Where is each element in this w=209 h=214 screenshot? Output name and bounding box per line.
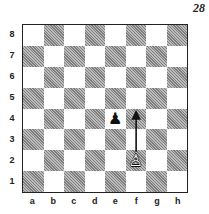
diagram-number: 28 (193, 1, 205, 16)
square-h2 (167, 150, 188, 171)
square-h5 (167, 88, 188, 109)
black-pawn-e4: ♟ (105, 109, 126, 130)
square-b3 (44, 129, 65, 150)
file-label-f: f (126, 196, 146, 206)
square-f3 (126, 129, 147, 150)
square-g6 (146, 67, 167, 88)
rank-label-2: 2 (8, 155, 16, 165)
square-g2 (146, 150, 167, 171)
square-b7 (44, 46, 65, 67)
square-a6 (23, 67, 44, 88)
square-a2 (23, 150, 44, 171)
rank-label-4: 4 (8, 113, 16, 123)
square-f2: ♙ (126, 150, 147, 171)
square-h8 (167, 25, 188, 46)
square-f5 (126, 88, 147, 109)
square-h6 (167, 67, 188, 88)
square-a1 (23, 171, 44, 192)
square-g4 (146, 109, 167, 130)
square-g5 (146, 88, 167, 109)
square-e3 (105, 129, 126, 150)
square-b5 (44, 88, 65, 109)
square-h1 (167, 171, 188, 192)
square-c6 (64, 67, 85, 88)
square-a4 (23, 109, 44, 130)
square-e5 (105, 88, 126, 109)
square-e1 (105, 171, 126, 192)
square-d1 (85, 171, 106, 192)
square-b8 (44, 25, 65, 46)
file-label-a: a (22, 196, 42, 206)
rank-label-8: 8 (8, 29, 16, 39)
square-d7 (85, 46, 106, 67)
rank-label-3: 3 (8, 134, 16, 144)
square-h4 (167, 109, 188, 130)
square-c2 (64, 150, 85, 171)
file-label-d: d (85, 196, 105, 206)
square-g7 (146, 46, 167, 67)
square-b1 (44, 171, 65, 192)
square-h7 (167, 46, 188, 67)
file-label-b: b (43, 196, 63, 206)
square-e4: ♟ (105, 109, 126, 130)
square-h3 (167, 129, 188, 150)
square-a8 (23, 25, 44, 46)
file-label-g: g (147, 196, 167, 206)
square-g3 (146, 129, 167, 150)
white-pawn-f2: ♙ (126, 150, 147, 171)
file-label-e: e (105, 196, 125, 206)
square-d8 (85, 25, 106, 46)
square-a3 (23, 129, 44, 150)
square-f1 (126, 171, 147, 192)
square-c8 (64, 25, 85, 46)
square-c5 (64, 88, 85, 109)
square-e6 (105, 67, 126, 88)
chess-board: ♟♙ (22, 24, 188, 193)
square-d6 (85, 67, 106, 88)
square-f7 (126, 46, 147, 67)
square-e2 (105, 150, 126, 171)
square-a7 (23, 46, 44, 67)
square-b6 (44, 67, 65, 88)
square-f4 (126, 109, 147, 130)
square-c7 (64, 46, 85, 67)
rank-label-5: 5 (8, 92, 16, 102)
square-b4 (44, 109, 65, 130)
square-d5 (85, 88, 106, 109)
square-c1 (64, 171, 85, 192)
square-e8 (105, 25, 126, 46)
square-d4 (85, 109, 106, 130)
rank-label-1: 1 (8, 176, 16, 186)
rank-label-7: 7 (8, 50, 16, 60)
square-g1 (146, 171, 167, 192)
square-d2 (85, 150, 106, 171)
file-label-c: c (64, 196, 84, 206)
square-a5 (23, 88, 44, 109)
square-e7 (105, 46, 126, 67)
square-f6 (126, 67, 147, 88)
square-g8 (146, 25, 167, 46)
rank-label-6: 6 (8, 71, 16, 81)
square-f8 (126, 25, 147, 46)
file-label-h: h (168, 196, 188, 206)
square-c3 (64, 129, 85, 150)
square-c4 (64, 109, 85, 130)
square-d3 (85, 129, 106, 150)
square-b2 (44, 150, 65, 171)
